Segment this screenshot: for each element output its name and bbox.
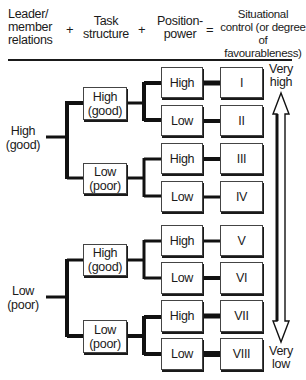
double-headed-arrow-icon [0,0,306,380]
